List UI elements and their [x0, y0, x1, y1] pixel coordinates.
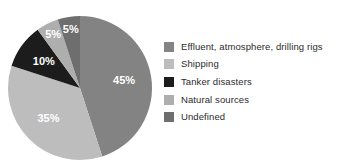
legend-item-effluent-atmosphere-drilling-rigs[interactable]: Effluent, atmosphere, drilling rigs — [164, 38, 341, 56]
legend-label-effluent: Effluent, atmosphere, drilling rigs — [181, 42, 323, 52]
legend-swatch-icon-shipping — [164, 59, 174, 69]
legend-item-natural-sources[interactable]: Natural sources — [164, 91, 341, 109]
legend-label-shipping: Shipping — [181, 59, 219, 69]
legend-label-natural-sources: Natural sources — [181, 95, 249, 105]
legend: Effluent, atmosphere, drilling rigs Ship… — [164, 38, 341, 126]
legend-swatch-icon-natural-sources — [164, 95, 174, 105]
pie-chart-figure: 45% 35% 10% 5% 5% Effluent, atmosphere, … — [0, 0, 341, 165]
pie-slice-label-45: 45% — [113, 74, 135, 86]
legend-swatch-icon-effluent — [164, 42, 174, 52]
legend-swatch-icon-tanker-disasters — [164, 77, 174, 87]
pie-plot-area: 45% 35% 10% 5% 5% — [0, 0, 162, 165]
pie-slice-label-10: 10% — [33, 55, 55, 67]
pie-svg: 45% 35% 10% 5% 5% — [0, 0, 162, 165]
legend-swatch-icon-undefined — [164, 112, 174, 122]
legend-item-tanker-disasters[interactable]: Tanker disasters — [164, 73, 341, 91]
legend-label-undefined: Undefined — [181, 112, 225, 122]
pie-slice-label-undefined: 5% — [63, 23, 79, 35]
legend-label-tanker-disasters: Tanker disasters — [181, 77, 252, 87]
legend-item-shipping[interactable]: Shipping — [164, 56, 341, 74]
pie-slice-label-natural-sources: 5% — [45, 28, 61, 40]
legend-item-undefined[interactable]: Undefined — [164, 108, 341, 126]
pie-slice-label-35: 35% — [37, 112, 59, 124]
